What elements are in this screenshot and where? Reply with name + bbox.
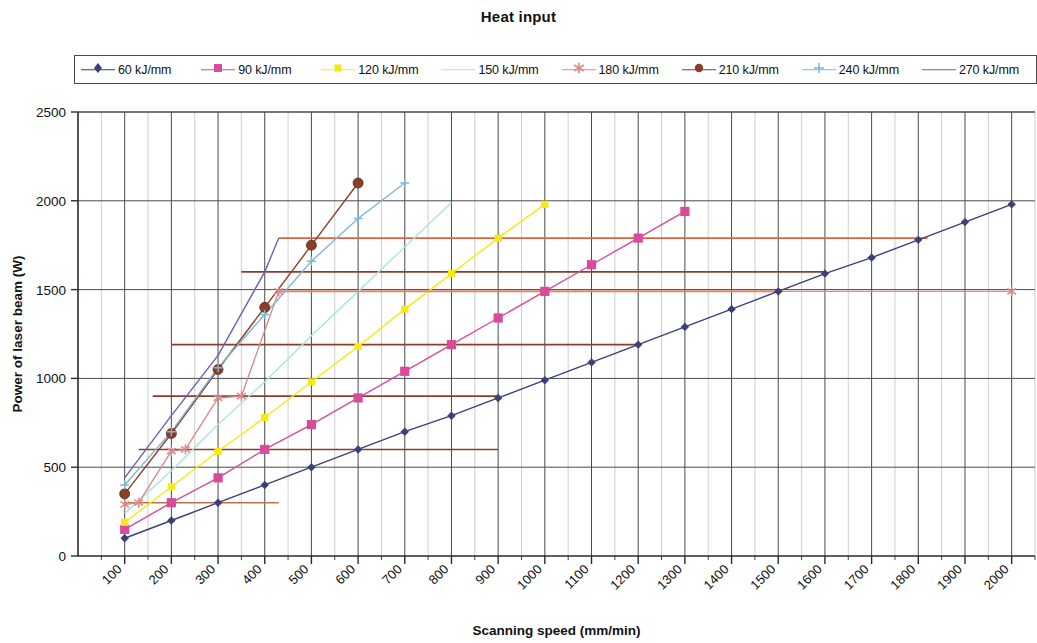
plot-background — [78, 112, 1035, 556]
data-point-marker — [307, 420, 316, 429]
legend-label: 150 kJ/mm — [478, 63, 538, 77]
data-point-marker — [214, 448, 221, 455]
x-axis-tick-label-group: 1700 — [841, 562, 872, 593]
y-axis-tick-label: 1500 — [36, 283, 66, 298]
legend-label: 240 kJ/mm — [839, 63, 899, 77]
legend-marker-square-icon — [211, 61, 225, 79]
legend-key-icon — [682, 62, 716, 78]
x-axis-tick-label-group: 1100 — [561, 562, 591, 592]
x-axis-tick-label: 1900 — [934, 562, 965, 593]
x-axis-tick-label-group: 900 — [472, 562, 498, 588]
legend-item-210kjmm[interactable]: 210 kJ/mm — [676, 62, 796, 78]
data-point-marker — [400, 367, 409, 376]
legend-key-icon — [321, 62, 355, 78]
x-axis-tick-label: 1300 — [654, 562, 685, 593]
y-axis-tick-label: 0 — [58, 549, 66, 564]
legend-item-150kjmm[interactable]: 150 kJ/mm — [435, 62, 555, 78]
legend-item-240kjmm[interactable]: 240 kJ/mm — [796, 62, 916, 78]
data-point-marker — [353, 393, 362, 402]
x-axis-tick-label-group: 1500 — [747, 562, 778, 593]
legend-item-180kjmm[interactable]: 180 kJ/mm — [556, 62, 676, 78]
legend-key-icon — [201, 62, 235, 78]
x-axis-tick-label: 500 — [286, 562, 312, 588]
data-point-marker — [260, 445, 269, 454]
x-axis-tick-label: 100 — [99, 562, 125, 588]
data-point-marker — [353, 178, 363, 188]
legend-label: 120 kJ/mm — [358, 63, 418, 77]
x-axis-tick-label-group: 1800 — [887, 562, 918, 593]
data-point-marker — [308, 378, 315, 385]
data-point-marker — [121, 519, 128, 526]
data-point-marker — [541, 201, 548, 208]
x-axis-tick-label-group: 700 — [379, 562, 405, 588]
x-axis-tick-label-group: 400 — [239, 562, 265, 588]
chart-title: Heat input — [0, 8, 1037, 25]
x-axis-tick-label-group: 2000 — [981, 562, 1012, 593]
chart-legend: 60 kJ/mm90 kJ/mm120 kJ/mm150 kJ/mm180 kJ… — [74, 55, 1037, 84]
x-axis-tick-label: 600 — [332, 562, 358, 588]
data-point-marker — [540, 287, 549, 296]
data-point-marker — [120, 489, 130, 499]
legend-item-60kjmm[interactable]: 60 kJ/mm — [75, 62, 195, 78]
data-point-marker — [494, 313, 503, 322]
data-point-marker — [167, 498, 176, 507]
data-point-marker — [447, 340, 456, 349]
x-axis-tick-label-group: 1200 — [607, 562, 638, 593]
legend-key-icon — [81, 62, 115, 78]
legend-marker-square-small-icon — [331, 61, 345, 79]
legend-key-icon — [562, 62, 596, 78]
x-axis-tick-label: 700 — [379, 562, 405, 588]
legend-item-270kjmm[interactable]: 270 kJ/mm — [916, 62, 1036, 78]
x-axis-tick-label-group: 600 — [332, 562, 358, 588]
x-axis-tick-label: 1500 — [747, 562, 778, 593]
data-point-marker — [213, 473, 222, 482]
legend-label: 210 kJ/mm — [719, 63, 779, 77]
chart-root: Heat input 60 kJ/mm90 kJ/mm120 kJ/mm150 … — [0, 0, 1037, 643]
data-point-marker — [120, 525, 129, 534]
data-point-marker — [401, 306, 408, 313]
data-point-marker — [168, 483, 175, 490]
legend-key-icon — [802, 62, 836, 78]
x-axis-tick-label-group: 500 — [286, 562, 312, 588]
y-axis-tick-label: 500 — [43, 460, 66, 475]
x-axis-tick-label: 1000 — [514, 562, 545, 593]
x-axis-tick-label-group: 300 — [192, 562, 218, 588]
x-axis-tick-label-group: 1900 — [934, 562, 965, 593]
y-axis-tick-label: 2500 — [36, 105, 66, 120]
x-axis-tick-label: 200 — [146, 562, 172, 588]
x-axis-tick-label: 1100 — [561, 562, 591, 592]
plot-svg: 0500100015002000250010020030040050060070… — [0, 100, 1037, 643]
data-point-marker — [354, 343, 361, 350]
y-axis-title: Power of laser beam (W) — [10, 256, 25, 413]
x-axis-tick-label: 900 — [472, 562, 498, 588]
legend-label: 90 kJ/mm — [238, 63, 291, 77]
x-axis-tick-label-group: 200 — [146, 562, 172, 588]
x-axis-tick-label-group: 1400 — [701, 562, 732, 593]
x-axis-tick-label: 1400 — [701, 562, 732, 593]
x-axis-tick-label: 800 — [426, 562, 452, 588]
x-axis-tick-label-group: 1300 — [654, 562, 685, 593]
legend-key-icon — [922, 62, 956, 78]
y-axis-tick-label: 2000 — [36, 194, 66, 209]
x-axis-tick-label: 1800 — [887, 562, 918, 593]
legend-item-90kjmm[interactable]: 90 kJ/mm — [195, 62, 315, 78]
x-axis-tick-label-group: 100 — [99, 562, 125, 588]
x-axis-tick-label-group: 1600 — [794, 562, 825, 593]
x-axis-title: Scanning speed (mm/min) — [472, 623, 640, 638]
x-axis-tick-label-group: 800 — [426, 562, 452, 588]
plot-area: 0500100015002000250010020030040050060070… — [0, 100, 1037, 643]
legend-marker-star-icon — [572, 61, 586, 79]
x-axis-tick-label-group: 1000 — [514, 562, 545, 593]
x-axis-tick-label: 1600 — [794, 562, 825, 593]
legend-marker-circle-icon — [692, 61, 706, 79]
legend-marker-diamond-icon — [91, 61, 105, 79]
data-point-marker — [634, 233, 643, 242]
x-axis-tick-label: 2000 — [981, 562, 1012, 593]
legend-label: 60 kJ/mm — [118, 63, 171, 77]
legend-marker-plus-icon — [812, 61, 826, 79]
data-point-marker — [306, 240, 316, 250]
legend-item-120kjmm[interactable]: 120 kJ/mm — [315, 62, 435, 78]
data-point-marker — [448, 270, 455, 277]
legend-label: 270 kJ/mm — [959, 63, 1019, 77]
x-axis-tick-label: 1700 — [841, 562, 872, 593]
